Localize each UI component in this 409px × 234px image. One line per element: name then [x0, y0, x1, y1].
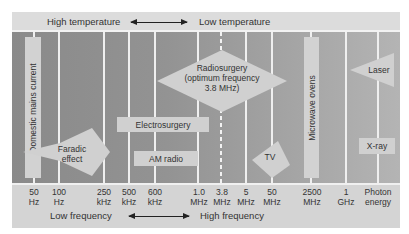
tick-100hz: 100Hz — [52, 187, 66, 207]
tick-50hz: 50Hz — [29, 187, 39, 207]
xray-box: X-ray — [359, 138, 395, 154]
am-radio-box: AM radio — [134, 151, 198, 166]
microwave-ovens-label: Microwave ovens — [307, 75, 317, 141]
radiosurgery-line-3: 3.8 MHz) — [182, 83, 262, 93]
tick-250khz: 250kHz — [97, 187, 112, 207]
tick-1mhz: 1.0MHz — [190, 187, 207, 207]
faradic-line-1: Faradic — [52, 144, 92, 154]
tick-2500mhz: 2500MHz — [303, 187, 322, 207]
tick-500khz: 500kHz — [122, 187, 137, 207]
tick-50mhz: 50MHz — [263, 187, 280, 207]
tick-1ghz: 1GHz — [338, 187, 355, 207]
tick-photon-energy: Photonenergy — [365, 187, 392, 207]
double-arrow-icon — [129, 216, 189, 217]
tick-600khz: 600kHz — [148, 187, 163, 207]
low-frequency-label: Low frequency — [50, 210, 112, 221]
high-frequency-label: High frequency — [200, 210, 264, 221]
low-temperature-label: Low temperature — [199, 16, 270, 27]
radiosurgery-line-2: (optimum frequency — [182, 73, 262, 83]
radiosurgery-label: Radiosurgery (optimum frequency 3.8 MHz) — [182, 63, 262, 93]
radiosurgery-line-1: Radiosurgery — [182, 63, 262, 73]
high-temperature-label: High temperature — [47, 16, 120, 27]
grid-line-500khz — [128, 32, 130, 183]
double-arrow-icon — [131, 22, 187, 23]
tick-5mhz: 5MHz — [237, 187, 254, 207]
laser-label: Laser — [366, 65, 392, 75]
grid-line-1ghz — [345, 32, 347, 183]
tick-3-8mhz: 3.8MHz — [213, 187, 230, 207]
electrosurgery-box: Electrosurgery — [117, 117, 209, 132]
faradic-effect-label: Faradic effect — [52, 144, 92, 164]
faradic-line-2: effect — [52, 154, 92, 164]
tv-label: TV — [258, 152, 282, 162]
microwave-ovens-bar: Microwave ovens — [304, 37, 319, 178]
